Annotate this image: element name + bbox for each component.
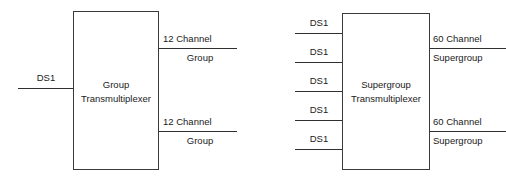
right-input-label-2: DS1	[295, 46, 343, 58]
right-input-label-4: DS1	[295, 104, 343, 116]
right-output-label-above-2: 60 Channel	[433, 116, 482, 128]
block-group-transmultiplexer-line1: Group	[74, 78, 158, 91]
block-group-transmultiplexer-line2: Transmultiplexer	[74, 92, 158, 105]
block-supergroup-transmultiplexer-line2: Transmultiplexer	[343, 92, 429, 105]
right-output-line-1	[430, 48, 506, 49]
block-group-transmultiplexer: Group Transmultiplexer	[73, 11, 159, 170]
left-output-line-2	[159, 131, 237, 132]
right-input-label-1: DS1	[295, 17, 343, 29]
right-output-line-2	[430, 131, 506, 132]
right-output-label-below-1: Supergroup	[433, 52, 483, 64]
left-output-label-above-1: 12 Channel	[163, 33, 212, 45]
right-input-line-2	[295, 62, 343, 63]
left-output-label-above-2: 12 Channel	[163, 116, 212, 128]
right-input-line-5	[295, 149, 343, 150]
right-input-line-4	[295, 120, 343, 121]
block-supergroup-transmultiplexer: Supergroup Transmultiplexer	[342, 13, 430, 170]
right-input-line-3	[295, 91, 343, 92]
left-output-label-below-1: Group	[163, 52, 237, 64]
left-output-label-below-2: Group	[163, 135, 237, 147]
right-input-label-3: DS1	[295, 75, 343, 87]
right-output-label-above-1: 60 Channel	[433, 33, 482, 45]
block-supergroup-transmultiplexer-line1: Supergroup	[343, 78, 429, 91]
right-input-label-5: DS1	[295, 133, 343, 145]
right-input-line-1	[295, 33, 343, 34]
left-input-line-1	[18, 88, 74, 89]
right-output-label-below-2: Supergroup	[433, 135, 483, 147]
left-input-label-1: DS1	[18, 72, 74, 84]
diagram-canvas: DS1 Group Transmultiplexer 12 Channel Gr…	[0, 0, 506, 187]
left-output-line-1	[159, 48, 237, 49]
